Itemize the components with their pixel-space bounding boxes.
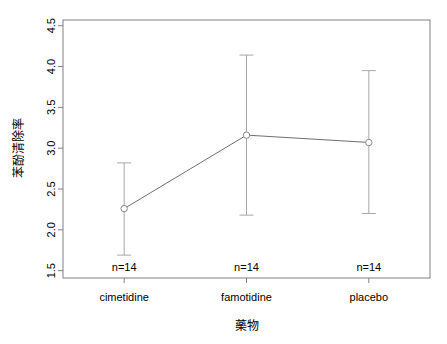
y-tick-label: 2.0 bbox=[45, 222, 57, 237]
y-tick-label: 4.5 bbox=[45, 18, 57, 33]
chart-svg: 1.52.02.53.03.54.04.5 cimetidinefamotidi… bbox=[0, 0, 447, 344]
chart-canvas: 1.52.02.53.03.54.04.5 cimetidinefamotidi… bbox=[0, 0, 447, 344]
y-tick-label: 1.5 bbox=[45, 263, 57, 278]
x-tick-label: placebo bbox=[350, 291, 389, 303]
y-tick-label: 3.5 bbox=[45, 100, 57, 115]
x-tick-label: cimetidine bbox=[99, 291, 149, 303]
sample-size-label: n=14 bbox=[234, 261, 259, 273]
sample-size-label: n=14 bbox=[112, 261, 137, 273]
data-point-marker bbox=[121, 205, 127, 211]
y-tick-label: 3.0 bbox=[45, 141, 57, 156]
x-tick-label: famotidine bbox=[221, 291, 272, 303]
sample-size-label: n=14 bbox=[356, 261, 381, 273]
data-point-marker bbox=[243, 132, 249, 138]
data-point-marker bbox=[366, 139, 372, 145]
x-axis-title: 藥物 bbox=[235, 319, 259, 333]
y-tick-label: 2.5 bbox=[45, 181, 57, 196]
y-tick-label: 4.0 bbox=[45, 59, 57, 74]
y-axis-title: 苯酚清除率 bbox=[11, 118, 26, 178]
